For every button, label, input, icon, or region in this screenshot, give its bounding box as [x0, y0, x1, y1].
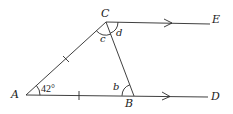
point-label-D: D	[210, 90, 220, 103]
point-label-A: A	[10, 88, 19, 101]
point-label-B: B	[124, 97, 133, 110]
angle-label-A: 42°	[41, 83, 55, 94]
angle-label-d: d	[116, 27, 122, 38]
segment-CE	[106, 22, 210, 24]
point-label-E: E	[211, 13, 220, 26]
angle-arc-b	[122, 85, 130, 96]
angle-label-b: b	[113, 81, 119, 92]
segment-AD	[26, 95, 208, 97]
angle-label-c: c	[100, 33, 106, 44]
parallel-arrow-icon	[162, 92, 170, 100]
geometry-diagram: C A B D E 42° b c d	[0, 0, 233, 114]
angle-arc-A	[36, 86, 40, 96]
point-label-C: C	[101, 7, 110, 20]
